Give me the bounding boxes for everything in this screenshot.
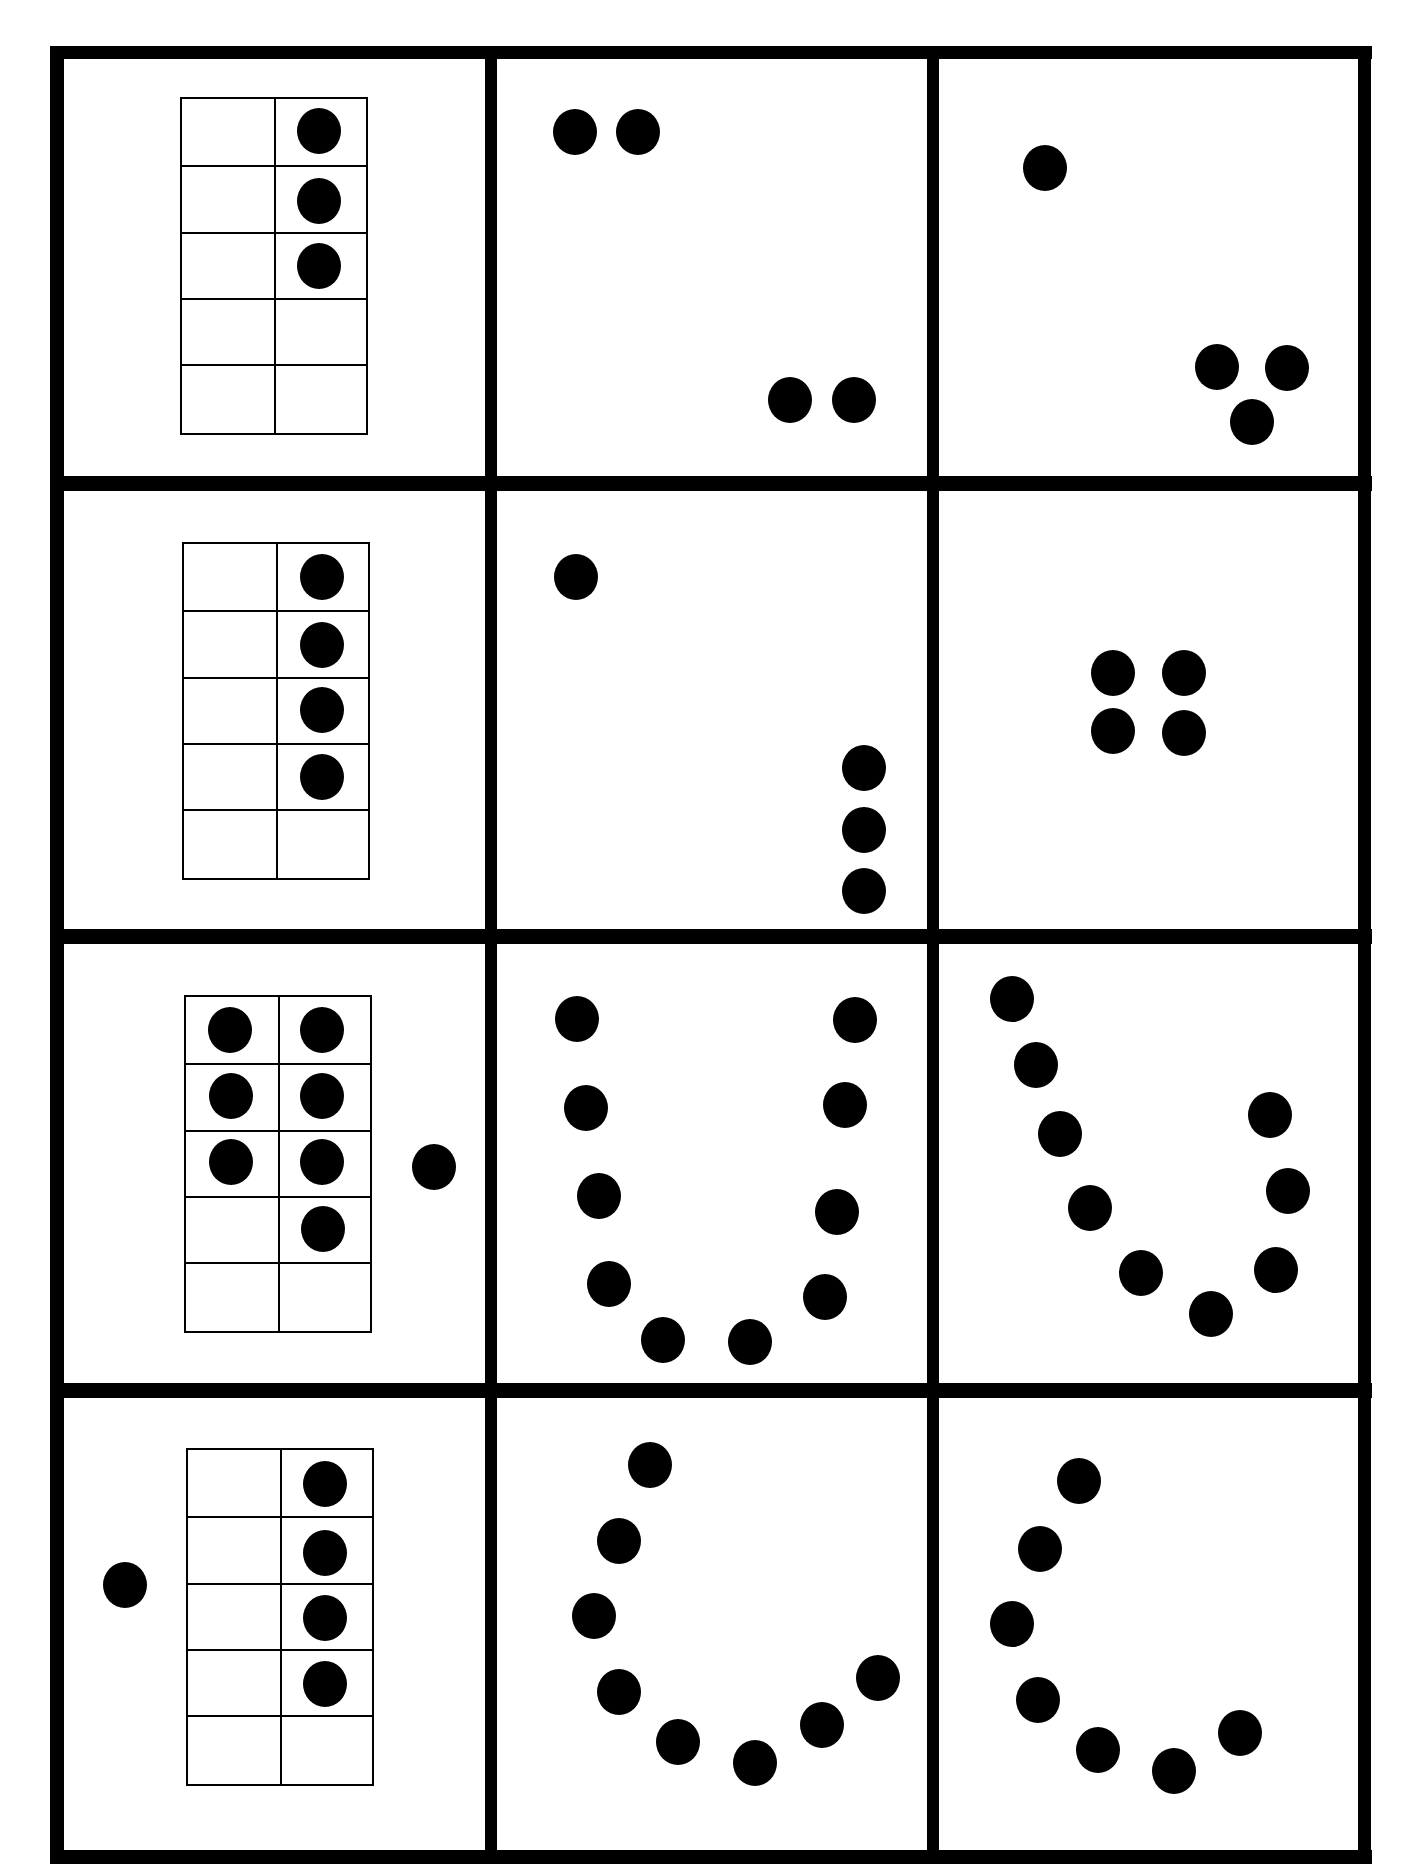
counter-dot [1248,1092,1292,1138]
counter-dot [1266,1168,1310,1214]
counter-dot [842,807,886,853]
counter-dot [990,976,1034,1022]
counter-dot [990,1601,1034,1647]
counter-dot [628,1442,672,1488]
counter-dot [103,1562,147,1608]
counter-dot [300,1073,344,1119]
counter-dot [1254,1247,1298,1293]
counter-dot [1218,1710,1262,1756]
counter-dot [733,1740,777,1786]
outer-border-right [1358,46,1371,1864]
counter-dot [555,996,599,1042]
counter-dot [1038,1111,1082,1157]
counter-dot [728,1319,772,1365]
row-divider-1 [50,476,1372,491]
counter-dot [412,1144,456,1190]
outer-border-left [50,46,64,1864]
counter-dot [597,1669,641,1715]
counter-dot [1016,1677,1060,1723]
counter-dot [656,1719,700,1765]
counter-dot [641,1317,685,1363]
counter-dot [1189,1291,1233,1337]
row-divider-3 [50,1383,1372,1398]
column-divider-1 [485,46,497,1864]
counter-dot [572,1593,616,1639]
counter-dot [209,1139,253,1185]
counter-dot [1068,1185,1112,1231]
counter-dot [1091,650,1135,696]
counter-dot [554,554,598,600]
counter-dot [1091,708,1135,754]
counter-dot [1057,1458,1101,1504]
counter-dot [1119,1250,1163,1296]
counter-dot [300,754,344,800]
counter-dot [1195,344,1239,390]
counter-dot [303,1661,347,1707]
outer-border-bottom [56,1850,1372,1864]
counter-dot [616,109,660,155]
counter-dot [1230,399,1274,445]
counter-dot [833,997,877,1043]
counter-dot [1023,145,1067,191]
counter-dot [1014,1042,1058,1088]
counter-dot [209,1073,253,1119]
counter-dot [800,1702,844,1748]
row-divider-2 [50,929,1372,944]
counter-dot [303,1595,347,1641]
counter-dot [577,1173,621,1219]
counter-dot [300,622,344,668]
counter-dot [297,108,341,154]
counter-dot [208,1007,252,1053]
counter-dot [303,1461,347,1507]
counter-dot [832,377,876,423]
counter-dot [768,377,812,423]
counter-dot [300,1007,344,1053]
counter-dot [300,554,344,600]
counter-dot [1162,710,1206,756]
counter-dot [1152,1748,1196,1794]
counter-dot [1076,1727,1120,1773]
column-divider-2 [927,46,939,1864]
counter-dot [587,1261,631,1307]
counter-dot [842,868,886,914]
counter-dot [842,745,886,791]
counter-dot [856,1655,900,1701]
counter-dot [300,1139,344,1185]
counter-dot [300,687,344,733]
counter-dot [303,1530,347,1576]
counter-dot [1162,650,1206,696]
counter-dot [597,1518,641,1564]
counter-dot [564,1085,608,1131]
counter-dot [553,109,597,155]
counter-dot [1265,345,1309,391]
counter-dot [803,1274,847,1320]
counter-dot [297,243,341,289]
counter-dot [815,1189,859,1235]
counter-dot [823,1082,867,1128]
counting-card-sheet [0,0,1403,1874]
counter-dot [1018,1526,1062,1572]
counter-dot [301,1206,345,1252]
outer-border-top [50,46,1372,59]
counter-dot [297,178,341,224]
